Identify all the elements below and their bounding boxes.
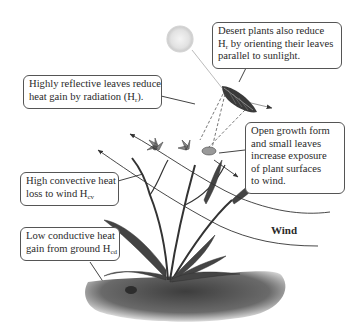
sun-icon xyxy=(167,26,193,52)
callout-text: increase exposure xyxy=(251,150,339,163)
callout-text: parallel to sunlight. xyxy=(218,50,336,63)
callout-conductive: Low conductive heat gain from ground Hcd xyxy=(20,227,120,261)
callout-text: Desert plants also reduce xyxy=(218,25,336,38)
text-fragment: ). xyxy=(137,91,143,102)
dashed-guide xyxy=(212,94,225,148)
callout-open-growth: Open growth form and small leaves increa… xyxy=(245,122,345,194)
callout-text: of plant surfaces xyxy=(251,163,339,176)
dashed-guide xyxy=(206,110,245,150)
callout-leaf-orientation: Desert plants also reduce Hr by orientin… xyxy=(212,22,342,69)
callout-text: Hr by orienting their leaves xyxy=(218,38,336,51)
callout-text: High convective heat xyxy=(26,175,113,188)
leader-line xyxy=(239,68,246,82)
callout-text: to wind. xyxy=(251,175,339,188)
wind-label: Wind xyxy=(271,224,297,236)
leader-line xyxy=(90,262,104,283)
text-fragment: gain from ground H xyxy=(26,243,110,254)
callout-text: gain from ground Hcd xyxy=(26,243,114,256)
callout-text: Open growth form xyxy=(251,125,339,138)
oriented-leaf-icon xyxy=(222,86,257,112)
leader-line xyxy=(161,96,195,104)
dashed-guide xyxy=(200,94,223,140)
leader-line xyxy=(219,150,245,153)
callout-text: Low conductive heat xyxy=(26,230,114,243)
text-fragment: heat gain by radiation (H xyxy=(29,91,135,102)
callout-text: loss to wind Hcv xyxy=(26,188,113,201)
callout-reflective-leaves: Highly reflective leaves reduce heat gai… xyxy=(23,75,162,109)
callout-text: heat gain by radiation (Hr). xyxy=(29,91,156,104)
callout-text: and small leaves xyxy=(251,138,339,151)
subscript: cv xyxy=(88,193,95,201)
text-fragment: by orienting their leaves xyxy=(228,38,333,49)
callout-convective: High convective heat loss to wind Hcv xyxy=(20,172,119,206)
text-fragment: H xyxy=(218,38,226,49)
subscript: cd xyxy=(110,248,117,256)
callout-text: Highly reflective leaves reduce xyxy=(29,78,156,91)
text-fragment: loss to wind H xyxy=(26,188,88,199)
plant-icon xyxy=(104,138,262,282)
